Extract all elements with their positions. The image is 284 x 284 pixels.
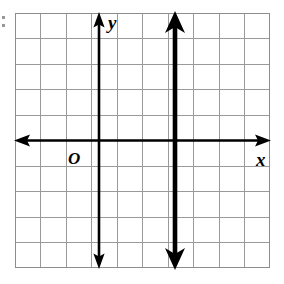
left-edge-artifact — [2, 16, 5, 30]
coordinate-plane-figure: y x O — [0, 0, 284, 284]
origin-label: O — [68, 150, 80, 167]
x-axis-label: x — [256, 150, 266, 169]
artifact-mark — [2, 16, 5, 19]
graph-canvas — [0, 0, 284, 284]
artifact-mark — [2, 24, 5, 27]
y-axis-label: y — [108, 13, 116, 32]
